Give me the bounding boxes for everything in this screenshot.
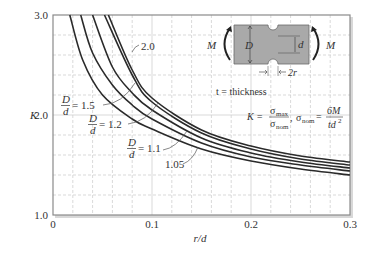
- frac-num: D: [88, 112, 97, 124]
- frac-num: D: [61, 93, 70, 105]
- moment-left: M: [206, 39, 217, 51]
- comma: ,: [290, 112, 293, 123]
- formula-k: K =: [246, 111, 263, 122]
- x-tick-2: 0.2: [244, 218, 258, 230]
- x-tick-0: 0: [50, 218, 56, 230]
- frac-val: = 1.1: [138, 142, 161, 154]
- dim-d: d: [298, 38, 304, 50]
- dim-D: D: [244, 39, 253, 51]
- y-tick-1: 1.0: [34, 209, 48, 221]
- thickness-note: t = thickness: [216, 86, 267, 97]
- frac-den: d: [129, 148, 135, 160]
- num-6m: 6M: [327, 105, 341, 116]
- frac-den: d: [63, 105, 69, 117]
- x-axis-label: r/d: [194, 232, 207, 244]
- curve-label-2-0: 2.0: [141, 40, 155, 52]
- y-axis-label: K: [29, 109, 38, 121]
- frac-val: = 1.5: [72, 99, 95, 111]
- sub-nom2: nom: [302, 117, 315, 125]
- den-td: td: [328, 119, 337, 130]
- den-sq: 2: [338, 117, 342, 125]
- frac-val: = 1.2: [99, 118, 122, 130]
- chart: 2.0 D d = 1.5 D d = 1.2 D d = 1.1 1.05 D…: [0, 0, 382, 263]
- frac-num: D: [127, 136, 136, 148]
- frac-den: d: [90, 124, 96, 136]
- dim-2r: 2r: [288, 67, 297, 78]
- y-tick-3: 3.0: [34, 9, 48, 21]
- equals: =: [316, 111, 322, 122]
- sub-nom: nom: [276, 123, 289, 131]
- x-tick-1: 0.1: [145, 218, 159, 230]
- moment-right: M: [325, 39, 336, 51]
- curve-label-1-05: 1.05: [165, 158, 185, 170]
- x-tick-3: 0.3: [343, 218, 357, 230]
